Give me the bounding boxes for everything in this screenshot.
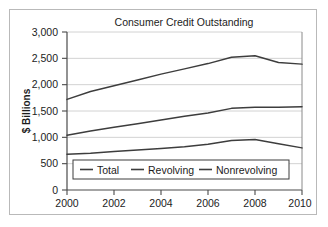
legend-label-nonrevolving: Nonrevolving <box>216 164 277 176</box>
x-axis-ticks <box>67 190 302 195</box>
y-tick-label-2500: 2,500 <box>32 52 58 64</box>
y-axis-tick-labels: 3,000 2,500 2,000 1,500 1,000 500 0 <box>32 26 58 196</box>
y-axis-ticks <box>62 32 67 190</box>
x-tick-label-2010: 2010 <box>288 197 312 209</box>
x-tick-label-2006: 2006 <box>196 197 220 209</box>
legend-label-revolving: Revolving <box>148 164 194 176</box>
y-tick-label-1000: 1,000 <box>32 131 58 143</box>
x-tick-label-2004: 2004 <box>149 197 173 209</box>
y-tick-label-2000: 2,000 <box>32 78 58 90</box>
x-axis-tick-labels: 2000 2002 2004 2006 2008 2010 <box>55 197 312 209</box>
y-tick-label-3000: 3,000 <box>32 26 58 38</box>
y-axis-title: $ Billions <box>21 88 32 133</box>
legend-label-total: Total <box>97 164 119 176</box>
y-tick-label-0: 0 <box>52 184 58 196</box>
chart-legend: Total Revolving Nonrevolving <box>73 160 289 179</box>
chart-title: Consumer Credit Outstanding <box>115 16 254 28</box>
y-tick-label-500: 500 <box>40 157 58 169</box>
x-tick-label-2002: 2002 <box>102 197 126 209</box>
y-tick-label-1500: 1,500 <box>32 105 58 117</box>
x-tick-label-2000: 2000 <box>55 197 79 209</box>
line-chart: 3,000 2,500 2,000 1,500 1,000 500 0 2000… <box>0 0 328 227</box>
chart-figure: 3,000 2,500 2,000 1,500 1,000 500 0 2000… <box>0 0 328 227</box>
x-tick-label-2008: 2008 <box>243 197 267 209</box>
